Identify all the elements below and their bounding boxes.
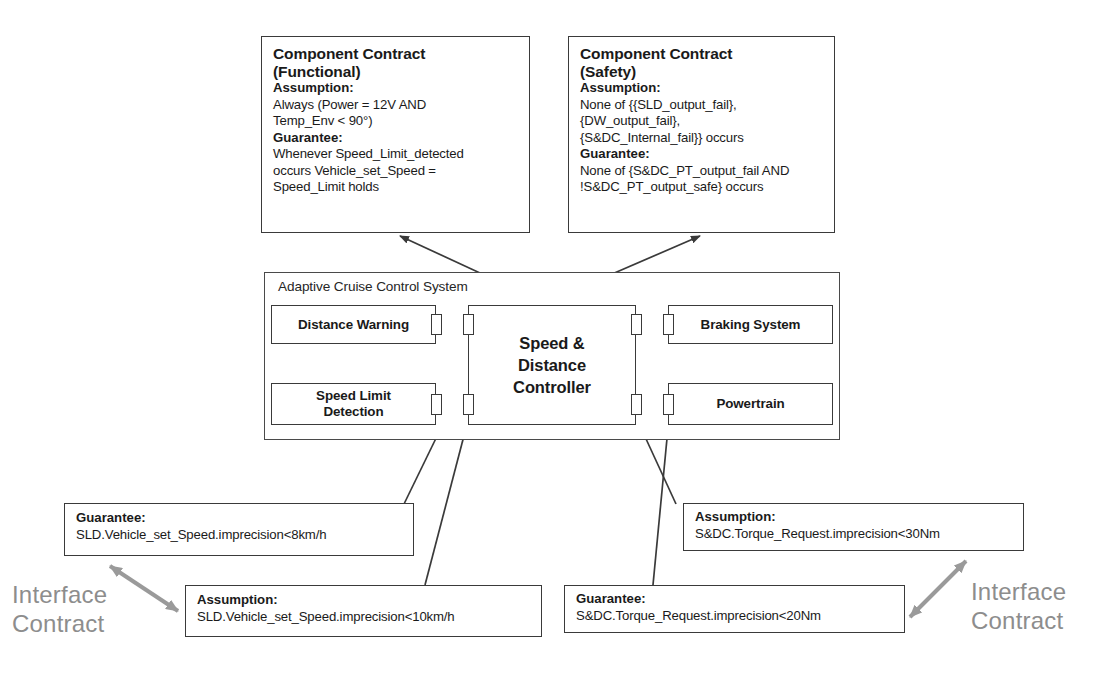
block-speed-distance-controller-label-line2: Distance bbox=[518, 356, 586, 374]
sdc-guarantee-label: Guarantee: bbox=[576, 591, 896, 608]
safety-guarantee-line1: None of {S&DC_PT_output_fail AND bbox=[580, 163, 825, 180]
interface-pointer-arrows bbox=[404, 428, 676, 585]
block-speed-limit-detection-label-line1: Speed Limit bbox=[316, 388, 391, 403]
safety-assumption-line1: None of {{SLD_output_fail}, bbox=[580, 97, 825, 114]
block-powertrain: Powertrain bbox=[668, 383, 833, 425]
safety-guarantee-line2: !S&DC_PT_output_safe} occurs bbox=[580, 179, 825, 196]
port-controller-out-braking bbox=[631, 314, 642, 335]
interface-contract-sdc-guarantee-box: Guarantee: S&DC.Torque_Request.imprecisi… bbox=[564, 585, 905, 633]
port-speed-limit-detection-out bbox=[431, 394, 442, 415]
functional-guarantee-label: Guarantee: bbox=[273, 130, 520, 147]
component-contract-safety-box: Component Contract (Safety) Assumption: … bbox=[568, 36, 835, 233]
port-controller-in-sld bbox=[463, 394, 474, 415]
port-powertrain-in bbox=[663, 394, 674, 415]
functional-assumption-line2: Temp_Env < 90°) bbox=[273, 113, 520, 130]
interface-contract-sdc-assumption-box: Assumption: S&DC.Torque_Request.imprecis… bbox=[683, 503, 1024, 551]
block-speed-distance-controller-label-wrap: Speed & Distance Controller bbox=[513, 332, 591, 398]
interface-contract-sld-guarantee-box: Guarantee: SLD.Vehicle_set_Speed.impreci… bbox=[64, 503, 414, 556]
port-controller-in-dw bbox=[463, 314, 474, 335]
block-speed-distance-controller: Speed & Distance Controller bbox=[468, 305, 636, 425]
interface-contract-label-left-line2: Contract bbox=[12, 609, 107, 638]
port-braking-system-in bbox=[663, 314, 674, 335]
port-controller-out-powertrain bbox=[631, 394, 642, 415]
block-speed-limit-detection-label-wrap: Speed Limit Detection bbox=[316, 388, 391, 420]
sld-assumption-text: SLD.Vehicle_set_Speed.imprecision<10km/h bbox=[197, 609, 533, 626]
component-contract-functional-box: Component Contract (Functional) Assumpti… bbox=[261, 36, 530, 233]
functional-assumption-label: Assumption: bbox=[273, 80, 520, 97]
interface-contract-label-right-line1: Interface bbox=[971, 577, 1066, 606]
safety-assumption-label: Assumption: bbox=[580, 80, 825, 97]
diagram-canvas: Component Contract (Functional) Assumpti… bbox=[0, 0, 1099, 679]
interface-contract-label-right: Interface Contract bbox=[971, 577, 1066, 635]
sdc-assumption-label: Assumption: bbox=[695, 509, 1015, 526]
interface-contract-label-right-line2: Contract bbox=[971, 606, 1066, 635]
functional-contract-title-line2: (Functional) bbox=[273, 63, 520, 81]
sld-assumption-label: Assumption: bbox=[197, 592, 533, 609]
functional-assumption-line1: Always (Power = 12V AND bbox=[273, 97, 520, 114]
functional-contract-title-line1: Component Contract bbox=[273, 45, 520, 63]
block-speed-limit-detection: Speed Limit Detection bbox=[271, 383, 436, 425]
sdc-guarantee-text: S&DC.Torque_Request.imprecision<20Nm bbox=[576, 608, 896, 625]
functional-guarantee-line2: occurs Vehicle_set_Speed = bbox=[273, 163, 520, 180]
sld-guarantee-label: Guarantee: bbox=[76, 510, 405, 527]
system-title: Adaptive Cruise Control System bbox=[278, 279, 468, 294]
interface-contract-label-left: Interface Contract bbox=[12, 580, 107, 638]
block-speed-distance-controller-label-line1: Speed & bbox=[519, 334, 584, 352]
block-braking-system-label: Braking System bbox=[701, 317, 801, 333]
block-speed-limit-detection-label-line2: Detection bbox=[323, 404, 383, 419]
port-distance-warning-out bbox=[431, 314, 442, 335]
safety-contract-title-line2: (Safety) bbox=[580, 63, 825, 81]
sdc-assumption-text: S&DC.Torque_Request.imprecision<30Nm bbox=[695, 526, 1015, 543]
block-braking-system: Braking System bbox=[668, 305, 833, 344]
safety-assumption-line2: {DW_output_fail}, bbox=[580, 113, 825, 130]
block-distance-warning-label: Distance Warning bbox=[298, 317, 409, 333]
interface-contract-label-left-line1: Interface bbox=[12, 580, 107, 609]
functional-guarantee-line1: Whenever Speed_Limit_detected bbox=[273, 146, 520, 163]
block-speed-distance-controller-label-line3: Controller bbox=[513, 378, 591, 396]
block-distance-warning: Distance Warning bbox=[271, 305, 436, 344]
safety-contract-title-line1: Component Contract bbox=[580, 45, 825, 63]
safety-assumption-line3: {S&DC_Internal_fail}} occurs bbox=[580, 130, 825, 147]
sld-guarantee-text: SLD.Vehicle_set_Speed.imprecision<8km/h bbox=[76, 527, 405, 544]
safety-guarantee-label: Guarantee: bbox=[580, 146, 825, 163]
block-powertrain-label: Powertrain bbox=[716, 396, 784, 412]
functional-guarantee-line3: Speed_Limit holds bbox=[273, 179, 520, 196]
interface-contract-sld-assumption-box: Assumption: SLD.Vehicle_set_Speed.imprec… bbox=[185, 585, 542, 637]
